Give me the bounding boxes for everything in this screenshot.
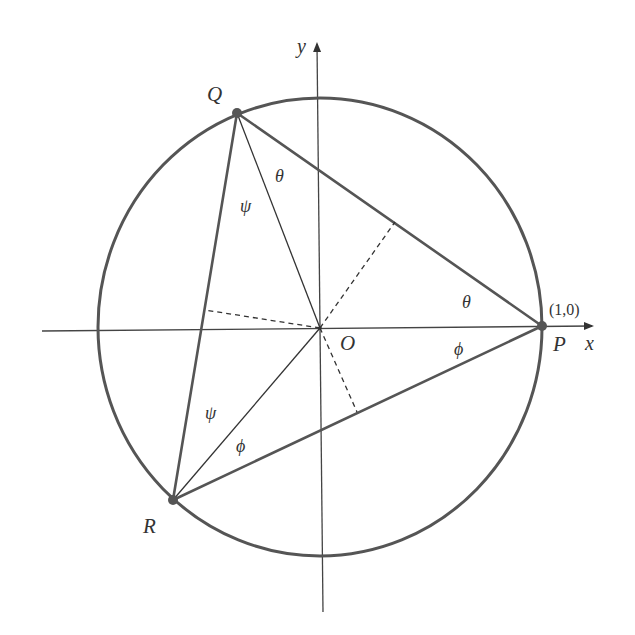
x-axis-label: x — [584, 332, 594, 354]
point-p-coordinate: (1,0) — [549, 301, 580, 319]
point-r-label: R — [142, 514, 156, 538]
origin-label: O — [340, 331, 355, 355]
point-o — [318, 326, 322, 330]
unit-circle-diagram: y x Q P (1,0) R O θ ψ θ ϕ ψ ϕ — [0, 0, 635, 635]
angle-psi-q: ψ — [240, 196, 252, 216]
angle-psi-r: ψ — [205, 403, 217, 423]
radius-or — [173, 328, 320, 500]
angle-phi-p: ϕ — [454, 339, 463, 359]
x-axis — [42, 326, 592, 331]
point-q-label: Q — [207, 82, 222, 106]
point-q — [232, 108, 242, 118]
triangle-pqr — [173, 113, 542, 500]
point-p-label: P — [552, 332, 566, 356]
radius-oq — [237, 113, 320, 328]
y-axis-label: y — [295, 35, 306, 58]
point-p — [537, 321, 547, 331]
angle-theta-p: θ — [462, 292, 471, 312]
perpendicular-to-qr — [205, 310, 320, 328]
angle-theta-q: θ — [275, 166, 284, 186]
angle-phi-r: ϕ — [236, 436, 245, 456]
perpendicular-to-pq — [320, 222, 395, 328]
point-r — [168, 495, 178, 505]
